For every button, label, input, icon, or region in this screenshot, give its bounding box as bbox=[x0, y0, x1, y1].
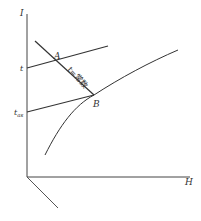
t-line bbox=[27, 46, 108, 68]
isotherm-label: t=常数 bbox=[66, 65, 91, 91]
y-axis-label: I bbox=[19, 8, 24, 18]
t-tick-label: t bbox=[20, 64, 24, 73]
point-a-label: A bbox=[53, 51, 61, 61]
point-b-label: B bbox=[92, 99, 100, 109]
oblique-axis bbox=[27, 177, 58, 208]
i-h-diagram: I H t tas A B t=常数 bbox=[0, 0, 201, 221]
x-axis-label: H bbox=[184, 177, 193, 187]
tas-line bbox=[27, 95, 94, 112]
tas-sub: as bbox=[17, 112, 23, 118]
tas-tick-label: tas bbox=[14, 108, 23, 118]
